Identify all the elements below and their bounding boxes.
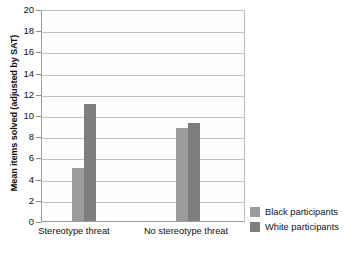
y-tick-label: 6 bbox=[29, 151, 34, 164]
gridline-14 bbox=[42, 75, 244, 76]
legend-swatch-icon-white-participants bbox=[250, 222, 260, 232]
gridline-16 bbox=[42, 53, 244, 54]
gridline-10 bbox=[42, 117, 244, 118]
y-tick-label: 12 bbox=[23, 88, 34, 101]
bar-stereotype-threat-black bbox=[72, 168, 84, 221]
bar-no-stereotype-threat-white bbox=[188, 123, 200, 221]
bar-chart: Mean items solved (adjusted by SAT) 20 1… bbox=[0, 0, 361, 256]
y-tick-label: 10 bbox=[23, 109, 34, 122]
legend-item-white-participants: White participants bbox=[250, 220, 360, 234]
legend: Black participants White participants bbox=[250, 205, 360, 235]
y-tick-label: 16 bbox=[23, 45, 34, 58]
gridline-12 bbox=[42, 96, 244, 97]
y-tick-label: 14 bbox=[23, 67, 34, 80]
y-tick-label: 20 bbox=[23, 3, 34, 16]
bar-stereotype-threat-white bbox=[84, 104, 96, 221]
legend-label-white-participants: White participants bbox=[265, 222, 339, 232]
legend-label-black-participants: Black participants bbox=[265, 207, 338, 217]
y-tick-label: 2 bbox=[29, 194, 34, 207]
x-axis-label-no-stereotype-threat: No stereotype threat bbox=[132, 226, 240, 236]
x-axis-label-stereotype-threat: Stereotype threat bbox=[34, 226, 114, 236]
plot-area bbox=[41, 10, 245, 222]
y-tick-label: 8 bbox=[29, 130, 34, 143]
gridline-6 bbox=[42, 159, 244, 160]
bar-no-stereotype-threat-black bbox=[176, 128, 188, 221]
legend-item-black-participants: Black participants bbox=[250, 205, 360, 219]
y-tick-mark bbox=[36, 222, 41, 223]
y-tick-label: 18 bbox=[23, 24, 34, 37]
y-tick-label: 4 bbox=[29, 173, 34, 186]
gridline-18 bbox=[42, 32, 244, 33]
legend-swatch-icon-black-participants bbox=[250, 207, 260, 217]
gridline-8 bbox=[42, 138, 244, 139]
y-axis-title: Mean items solved (adjusted by SAT) bbox=[9, 6, 19, 220]
